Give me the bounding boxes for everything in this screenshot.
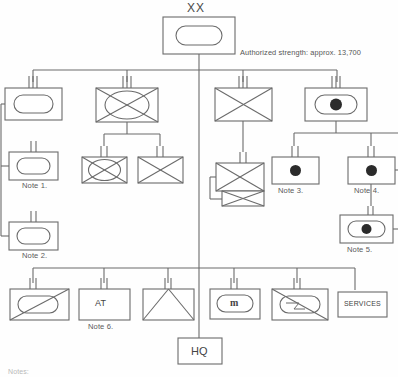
unit-engineer-battalion[interactable] bbox=[143, 278, 194, 320]
military-police-symbol-text: m bbox=[230, 297, 238, 308]
unit-mechanized-infantry-regiment[interactable] bbox=[96, 76, 158, 122]
antitank-symbol-text: AT bbox=[95, 298, 106, 308]
label-note-1: Note 1. bbox=[22, 181, 47, 190]
label-note-3: Note 3. bbox=[278, 186, 303, 195]
unit-artillery-battalion-3[interactable] bbox=[340, 206, 398, 243]
unit-armor-battalion-a[interactable] bbox=[138, 146, 183, 183]
notes-heading: Notes: bbox=[8, 368, 29, 375]
unit-reconnaissance-battalion[interactable] bbox=[10, 278, 69, 320]
unit-infantry-regiment-1[interactable] bbox=[5, 76, 62, 120]
services-symbol-text: SERVICES bbox=[344, 300, 381, 307]
unit-mechanized-infantry-battalion[interactable] bbox=[82, 146, 127, 183]
unit-signal-battalion[interactable] bbox=[272, 278, 328, 320]
authorized-strength-label: Authorized strength: approx. 13,700 bbox=[240, 48, 361, 57]
unit-armor-battalion-b[interactable] bbox=[210, 152, 264, 206]
label-note-2: Note 2. bbox=[22, 251, 47, 260]
organization-chart: XX Authorized strength: approx. 13,700 N… bbox=[0, 0, 398, 377]
unit-armor-regiment[interactable] bbox=[215, 76, 272, 121]
unit-infantry-regiment-2[interactable] bbox=[9, 141, 58, 180]
unit-artillery-regiment[interactable] bbox=[305, 76, 367, 121]
label-note-4: Note 4. bbox=[354, 186, 379, 195]
division-echelon-label: XX bbox=[187, 1, 205, 15]
unit-infantry-regiment-3[interactable] bbox=[9, 211, 58, 250]
label-note-5: Note 5. bbox=[347, 245, 372, 254]
unit-division-hq[interactable] bbox=[163, 17, 235, 54]
unit-artillery-battalion-1[interactable] bbox=[272, 146, 319, 184]
headquarters-symbol-text: HQ bbox=[191, 345, 208, 357]
unit-artillery-battalion-2[interactable] bbox=[348, 146, 398, 184]
label-note-6: Note 6. bbox=[88, 322, 113, 331]
